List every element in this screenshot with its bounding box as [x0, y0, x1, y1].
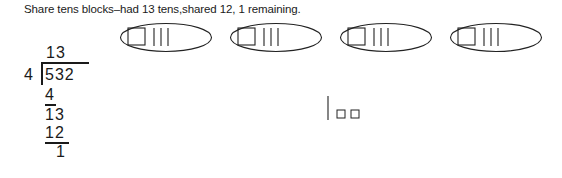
- division-bracket-top: [41, 62, 89, 64]
- step1-subtract: 4: [45, 86, 55, 104]
- group-3-ellipse: [339, 22, 433, 53]
- step2-remainder: 1: [56, 143, 66, 161]
- remaining-blocks: [326, 96, 376, 120]
- base-ten-group-icon: [229, 22, 323, 53]
- division-bracket-side: [41, 63, 43, 85]
- group-2-ellipse: [229, 22, 323, 53]
- base-ten-group-icon: [339, 22, 433, 53]
- group-4-ellipse: [449, 22, 543, 53]
- base-ten-group-icon: [449, 22, 543, 53]
- divisor: 4: [24, 66, 34, 84]
- ten-rod-and-ones-icon: [326, 96, 376, 120]
- step1-result: 13: [45, 106, 65, 124]
- quotient: 13: [46, 44, 66, 62]
- dividend: 532: [45, 66, 75, 84]
- step2-subtract: 12: [45, 124, 65, 142]
